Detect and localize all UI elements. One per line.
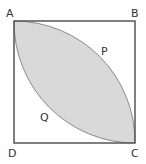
label-d: D bbox=[8, 147, 16, 160]
square-lens-diagram: A B C D P Q bbox=[0, 0, 146, 164]
label-b: B bbox=[131, 7, 139, 20]
label-p: P bbox=[101, 45, 108, 58]
label-a: A bbox=[6, 7, 14, 20]
shaded-lens-region bbox=[14, 21, 135, 143]
label-c: C bbox=[131, 147, 139, 160]
label-q: Q bbox=[40, 111, 49, 124]
